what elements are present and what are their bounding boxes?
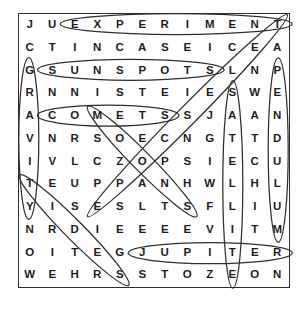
- grid-cell[interactable]: A: [266, 36, 289, 59]
- grid-cell[interactable]: E: [221, 264, 244, 287]
- grid-cell[interactable]: E: [154, 82, 177, 105]
- grid-cell[interactable]: T: [41, 36, 64, 59]
- grid-cell[interactable]: J: [199, 105, 222, 128]
- grid-cell[interactable]: R: [41, 218, 64, 241]
- grid-cell[interactable]: N: [244, 14, 267, 37]
- grid-cell[interactable]: M: [266, 218, 289, 241]
- grid-cell[interactable]: U: [64, 173, 87, 196]
- grid-cell[interactable]: E: [41, 173, 64, 196]
- grid-cell[interactable]: N: [41, 82, 64, 105]
- grid-cell[interactable]: T: [266, 14, 289, 37]
- grid-cell[interactable]: M: [199, 14, 222, 37]
- grid-cell[interactable]: V: [41, 150, 64, 173]
- grid-cell[interactable]: N: [86, 59, 109, 82]
- grid-cell[interactable]: L: [266, 173, 289, 196]
- grid-cell[interactable]: S: [199, 59, 222, 82]
- grid-cell[interactable]: O: [154, 59, 177, 82]
- grid-cell[interactable]: E: [131, 218, 154, 241]
- grid-cell[interactable]: A: [244, 105, 267, 128]
- grid-cell[interactable]: I: [64, 36, 87, 59]
- grid-cell[interactable]: O: [176, 264, 199, 287]
- grid-cell[interactable]: C: [41, 105, 64, 128]
- grid-cell[interactable]: S: [131, 264, 154, 287]
- grid-cell[interactable]: H: [176, 173, 199, 196]
- grid-cell[interactable]: E: [176, 36, 199, 59]
- grid-cell[interactable]: L: [221, 196, 244, 219]
- grid-cell[interactable]: P: [109, 14, 132, 37]
- grid-cell[interactable]: O: [244, 264, 267, 287]
- grid-cell[interactable]: A: [131, 36, 154, 59]
- grid-cell[interactable]: E: [266, 82, 289, 105]
- grid-cell[interactable]: R: [86, 264, 109, 287]
- grid-cell[interactable]: T: [19, 173, 42, 196]
- grid-cell[interactable]: F: [199, 196, 222, 219]
- grid-cell[interactable]: O: [131, 150, 154, 173]
- grid-cell[interactable]: C: [221, 36, 244, 59]
- grid-cell[interactable]: A: [131, 173, 154, 196]
- grid-cell[interactable]: N: [19, 218, 42, 241]
- grid-cell[interactable]: J: [19, 14, 42, 37]
- grid-cell[interactable]: L: [221, 173, 244, 196]
- grid-cell[interactable]: H: [244, 173, 267, 196]
- grid-cell[interactable]: U: [266, 150, 289, 173]
- grid-cell[interactable]: X: [86, 14, 109, 37]
- grid-cell[interactable]: S: [109, 59, 132, 82]
- grid-cell[interactable]: C: [244, 150, 267, 173]
- grid-cell[interactable]: W: [19, 264, 42, 287]
- grid-cell[interactable]: G: [19, 59, 42, 82]
- grid-cell[interactable]: S: [41, 59, 64, 82]
- grid-cell[interactable]: O: [19, 241, 42, 264]
- grid-cell[interactable]: R: [154, 14, 177, 37]
- grid-cell[interactable]: T: [131, 82, 154, 105]
- grid-cell[interactable]: L: [131, 196, 154, 219]
- grid-cell[interactable]: T: [131, 105, 154, 128]
- grid-cell[interactable]: H: [64, 264, 87, 287]
- grid-cell[interactable]: T: [244, 218, 267, 241]
- grid-cell[interactable]: I: [221, 218, 244, 241]
- grid-cell[interactable]: A: [19, 105, 42, 128]
- grid-cell[interactable]: N: [41, 127, 64, 150]
- grid-cell[interactable]: W: [199, 173, 222, 196]
- grid-cell[interactable]: V: [19, 127, 42, 150]
- grid-cell[interactable]: E: [86, 196, 109, 219]
- grid-cell[interactable]: T: [221, 241, 244, 264]
- grid-cell[interactable]: T: [154, 264, 177, 287]
- grid-cell[interactable]: E: [244, 36, 267, 59]
- grid-cell[interactable]: I: [19, 150, 42, 173]
- grid-cell[interactable]: D: [266, 127, 289, 150]
- grid-cell[interactable]: E: [41, 264, 64, 287]
- grid-cell[interactable]: E: [109, 105, 132, 128]
- grid-cell[interactable]: W: [244, 82, 267, 105]
- grid-cell[interactable]: N: [244, 59, 267, 82]
- grid-cell[interactable]: S: [176, 105, 199, 128]
- grid-cell[interactable]: I: [176, 14, 199, 37]
- grid-cell[interactable]: S: [109, 196, 132, 219]
- grid-cell[interactable]: N: [176, 127, 199, 150]
- grid-cell[interactable]: M: [86, 105, 109, 128]
- grid-cell[interactable]: S: [221, 82, 244, 105]
- grid-cell[interactable]: I: [244, 196, 267, 219]
- grid-cell[interactable]: T: [64, 241, 87, 264]
- grid-cell[interactable]: S: [154, 36, 177, 59]
- grid-cell[interactable]: S: [154, 105, 177, 128]
- grid-cell[interactable]: T: [244, 127, 267, 150]
- grid-cell[interactable]: I: [86, 82, 109, 105]
- grid-cell[interactable]: U: [64, 59, 87, 82]
- grid-cell[interactable]: Z: [199, 264, 222, 287]
- grid-cell[interactable]: G: [199, 127, 222, 150]
- grid-cell[interactable]: I: [41, 241, 64, 264]
- grid-cell[interactable]: V: [199, 218, 222, 241]
- grid-cell[interactable]: I: [199, 36, 222, 59]
- grid-cell[interactable]: S: [64, 196, 87, 219]
- grid-cell[interactable]: E: [221, 150, 244, 173]
- grid-cell[interactable]: C: [109, 36, 132, 59]
- grid-cell[interactable]: E: [244, 241, 267, 264]
- grid-cell[interactable]: U: [266, 196, 289, 219]
- grid-cell[interactable]: E: [154, 218, 177, 241]
- grid-cell[interactable]: R: [19, 82, 42, 105]
- grid-cell[interactable]: I: [86, 218, 109, 241]
- grid-cell[interactable]: E: [221, 14, 244, 37]
- grid-cell[interactable]: A: [221, 105, 244, 128]
- grid-cell[interactable]: Y: [19, 196, 42, 219]
- grid-cell[interactable]: L: [64, 150, 87, 173]
